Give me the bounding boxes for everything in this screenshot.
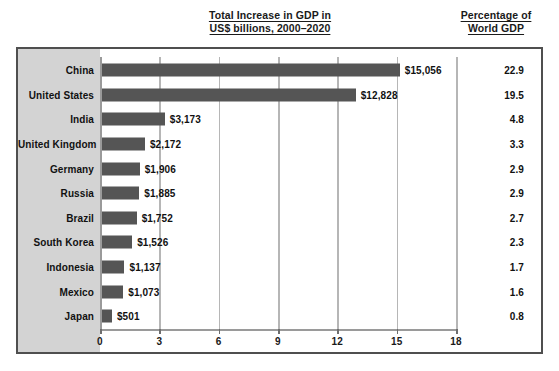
chart-row: Germany$1,9062.9 <box>18 156 541 181</box>
bar-track: $5010.8 <box>100 304 541 329</box>
bar-value-label: $1,906 <box>145 163 176 174</box>
x-tick-mark <box>337 329 339 334</box>
percentage-title-line-2: World GDP <box>440 22 552 35</box>
chart-row: Indonesia$1,1371.7 <box>18 255 541 280</box>
category-label: China <box>18 65 94 76</box>
x-tick-mark <box>100 329 102 334</box>
bar-track: $1,1371.7 <box>100 255 541 280</box>
bar-value-label: $1,752 <box>142 212 173 223</box>
chart-row: Mexico$1,0731.6 <box>18 279 541 304</box>
bar[interactable] <box>102 310 112 323</box>
category-label: Germany <box>18 163 94 174</box>
chart-row: South Korea$1,5262.3 <box>18 230 541 255</box>
bar-track: $1,0731.6 <box>100 279 541 304</box>
x-tick-label: 9 <box>275 336 281 347</box>
bar-track: $1,8852.9 <box>100 181 541 206</box>
bar[interactable] <box>102 162 140 175</box>
chart-title-line-1: Total Increase in GDP in <box>155 9 385 22</box>
category-label: South Korea <box>18 237 94 248</box>
percentage-value: 0.8 <box>472 311 524 322</box>
bar-value-label: $501 <box>117 311 140 322</box>
bar-track: $1,5262.3 <box>100 230 541 255</box>
percentage-value: 1.7 <box>472 262 524 273</box>
bar-track: $1,7522.7 <box>100 206 541 231</box>
category-label: Brazil <box>18 212 94 223</box>
bar-value-label: $3,173 <box>170 114 201 125</box>
x-tick-label: 15 <box>391 336 403 347</box>
x-tick-label: 12 <box>332 336 344 347</box>
percentage-value: 1.6 <box>472 286 524 297</box>
percentage-value: 22.9 <box>472 65 524 76</box>
x-tick-mark <box>397 329 399 334</box>
x-tick-label: 18 <box>450 336 462 347</box>
chart-row: India$3,1734.8 <box>18 107 541 132</box>
bar-track: $3,1734.8 <box>100 107 541 132</box>
percentage-value: 4.8 <box>472 114 524 125</box>
bar-value-label: $2,172 <box>150 139 181 150</box>
percentage-title-line-1: Percentage of <box>440 9 552 22</box>
chart-row: China$15,05622.9 <box>18 58 541 83</box>
chart-row: Russia$1,8852.9 <box>18 181 541 206</box>
bar-track: $15,05622.9 <box>100 58 541 83</box>
percentage-value: 2.3 <box>472 237 524 248</box>
x-tick-label: 6 <box>216 336 222 347</box>
bar-track: $1,9062.9 <box>100 156 541 181</box>
category-label: United States <box>18 89 94 100</box>
bar[interactable] <box>102 211 137 224</box>
bar-value-label: $15,056 <box>405 65 442 76</box>
category-label: Indonesia <box>18 262 94 273</box>
category-label: Japan <box>18 311 94 322</box>
percentage-value: 19.5 <box>472 89 524 100</box>
x-tick-mark <box>278 329 280 334</box>
category-label: Mexico <box>18 286 94 297</box>
percentage-value: 2.9 <box>472 188 524 199</box>
chart-row: United Kingdom$2,1723.3 <box>18 132 541 157</box>
bar-value-label: $1,526 <box>137 237 168 248</box>
chart-title-line-2: US$ billions, 2000–2020 <box>155 22 385 35</box>
bar[interactable] <box>102 285 123 298</box>
bar-track: $2,1723.3 <box>100 132 541 157</box>
x-tick-mark <box>219 329 221 334</box>
category-label: India <box>18 114 94 125</box>
x-tick-label: 3 <box>156 336 162 347</box>
chart-frame: 0369121518 China$15,05622.9United States… <box>16 47 543 354</box>
x-tick-mark <box>159 329 161 334</box>
x-tick-label: 0 <box>97 336 103 347</box>
bar-value-label: $1,885 <box>144 188 175 199</box>
chart-row: Japan$5010.8 <box>18 304 541 329</box>
x-tick-mark <box>456 329 458 334</box>
bar-value-label: $1,073 <box>128 286 159 297</box>
percentage-value: 2.7 <box>472 212 524 223</box>
bar[interactable] <box>102 187 139 200</box>
bar[interactable] <box>102 64 400 77</box>
bar[interactable] <box>102 88 356 101</box>
percentage-column-title: Percentage of World GDP <box>440 9 552 35</box>
bar[interactable] <box>102 138 145 151</box>
bar-value-label: $12,828 <box>361 89 398 100</box>
percentage-value: 3.3 <box>472 139 524 150</box>
chart-title: Total Increase in GDP in US$ billions, 2… <box>155 9 385 35</box>
bar[interactable] <box>102 261 124 274</box>
category-label: Russia <box>18 188 94 199</box>
chart-body: 0369121518 China$15,05622.9United States… <box>18 49 541 352</box>
bar[interactable] <box>102 236 132 249</box>
bar[interactable] <box>102 113 165 126</box>
chart-row: United States$12,82819.5 <box>18 83 541 108</box>
percentage-value: 2.9 <box>472 163 524 174</box>
bar-track: $12,82819.5 <box>100 83 541 108</box>
category-label: United Kingdom <box>18 139 94 150</box>
chart-headings: Total Increase in GDP in US$ billions, 2… <box>0 0 559 48</box>
chart-row: Brazil$1,7522.7 <box>18 206 541 231</box>
bar-value-label: $1,137 <box>129 262 160 273</box>
